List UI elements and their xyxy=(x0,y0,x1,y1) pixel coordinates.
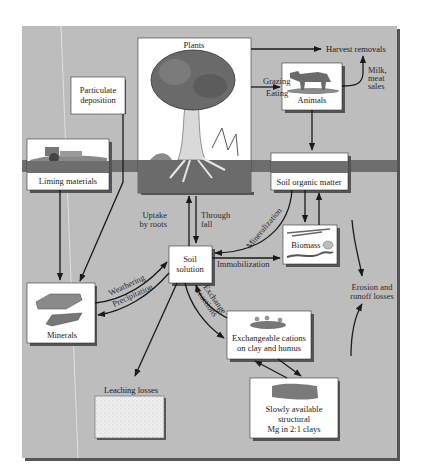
svg-text:Slowly available: Slowly available xyxy=(266,404,323,414)
biomass-label: Biomass xyxy=(291,240,320,250)
erosion-label-2: runoff losses xyxy=(350,291,394,301)
svg-text:solution: solution xyxy=(176,264,204,274)
leaching-losses-label: Leaching losses xyxy=(104,385,158,395)
eating-label: Eating xyxy=(266,88,289,98)
through-fall-label-2: fall xyxy=(201,219,213,229)
biomass-node: Biomass xyxy=(283,225,340,267)
particulate-deposition-label-1: Particulate xyxy=(80,85,117,95)
plants-label: Plants xyxy=(184,40,205,50)
slowly-available-label-3: Mg in 2:1 clays xyxy=(267,424,320,434)
exchangeable-cations-label-1: Exchangeable cations xyxy=(232,333,306,343)
exchangeable-cations-node: Exchangeable cations on clay and humus xyxy=(227,311,314,362)
animals-label: Animals xyxy=(298,95,327,105)
exchangeable-cations-label-2: on clay and humus xyxy=(237,343,301,353)
svg-text:deposition: deposition xyxy=(80,95,116,105)
immobilization-label: Immobilization xyxy=(217,259,270,269)
minerals-node: Minerals xyxy=(27,283,97,346)
grazing-label: Grazing xyxy=(263,76,291,86)
clay-particle-icon xyxy=(250,316,286,329)
particulate-deposition-node: Particulate deposition xyxy=(71,77,126,114)
svg-text:structural: structural xyxy=(278,414,311,424)
soil-organic-matter-label: Soil organic matter xyxy=(277,177,342,187)
animals-node: Animals xyxy=(282,63,345,113)
svg-text:Particulate: Particulate xyxy=(80,85,117,95)
soil-solution-node: Soil solution xyxy=(169,246,215,286)
minerals-label: Minerals xyxy=(47,330,77,340)
soil-solution-label-1: Soil xyxy=(183,254,197,264)
svg-text:fall: fall xyxy=(201,219,213,229)
slowly-available-mg-node: Slowly available structural Mg in 2:1 cl… xyxy=(250,378,340,441)
svg-text:sales: sales xyxy=(368,81,385,91)
harvest-removals-label: Harvest removals xyxy=(326,44,386,54)
svg-text:runoff losses: runoff losses xyxy=(350,291,394,301)
svg-text:by roots: by roots xyxy=(139,219,167,229)
uptake-label-2: by roots xyxy=(139,219,167,229)
magnesium-cycle-diagram: Plants Particulate deposition Liming mat… xyxy=(0,0,423,473)
svg-text:Soil: Soil xyxy=(183,254,197,264)
leaching-losses-node: Leaching losses xyxy=(95,385,166,440)
liming-materials-label: Liming materials xyxy=(39,176,97,186)
svg-text:Exchangeable cations: Exchangeable cations xyxy=(232,333,306,343)
svg-text:Mg in 2:1 clays: Mg in 2:1 clays xyxy=(267,424,320,434)
soil-solution-label-2: solution xyxy=(176,264,204,274)
svg-text:on clay and humus: on clay and humus xyxy=(237,343,301,353)
plants-node: Plants xyxy=(138,38,254,195)
milk-sales-label-3: sales xyxy=(368,81,385,91)
soil-organic-matter-node: Soil organic matter xyxy=(271,153,351,193)
clay-layers-icon xyxy=(272,384,318,400)
particulate-deposition-label-2: deposition xyxy=(80,95,116,105)
slowly-available-label-1: Slowly available xyxy=(266,404,323,414)
slowly-available-label-2: structural xyxy=(278,414,311,424)
liming-materials-node: Liming materials xyxy=(27,139,112,193)
